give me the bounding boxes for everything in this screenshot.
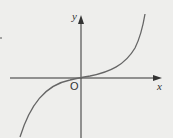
x-axis-label: x: [156, 80, 162, 92]
y-axis-arrow-icon: [78, 15, 84, 24]
cubic-curve: [20, 14, 145, 137]
graph-canvas: y x O: [0, 0, 173, 138]
y-axis-label: y: [71, 10, 77, 22]
origin-label: O: [70, 80, 79, 92]
